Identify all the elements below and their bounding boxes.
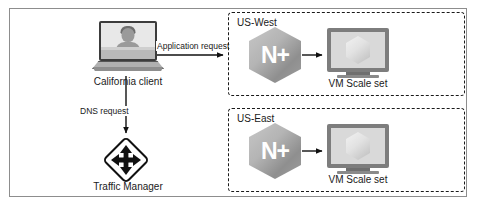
laptop-screen-bezel	[99, 21, 157, 61]
four-way-arrow-icon	[104, 138, 148, 182]
nginx-plus-label-us-west: N+	[249, 27, 301, 83]
vm-scale-set-label-us-east: VM Scale set	[313, 174, 403, 186]
monitor-bezel-us-west	[327, 28, 389, 72]
dns-request-label: DNS request	[79, 106, 130, 116]
user-head-shape	[122, 28, 135, 42]
application-request-label: Application request	[156, 41, 230, 51]
monitor-bezel-us-east	[327, 124, 389, 168]
vm-scale-set-icon-us-west: VM Scale set	[327, 28, 389, 86]
laptop-screen	[101, 23, 155, 59]
monitor-screen-us-west	[331, 32, 385, 68]
architecture-diagram: California client Application request DN…	[0, 0, 478, 207]
laptop-front-lip	[92, 67, 164, 71]
vm-scale-set-label-us-west: VM Scale set	[313, 78, 403, 90]
vm-cube-hexagon-us-east	[346, 132, 370, 160]
traffic-manager-label: Traffic Manager	[62, 181, 194, 193]
screen-band-dark	[101, 50, 155, 59]
monitor-screen-us-east	[331, 128, 385, 164]
vm-cube-hexagon-us-west	[346, 36, 370, 64]
california-client-icon	[92, 21, 164, 75]
traffic-manager-icon	[104, 138, 148, 182]
nginx-plus-label-us-east: N+	[249, 123, 301, 179]
california-client-label: California client	[62, 76, 194, 88]
vm-scale-set-icon-us-east: VM Scale set	[327, 124, 389, 182]
